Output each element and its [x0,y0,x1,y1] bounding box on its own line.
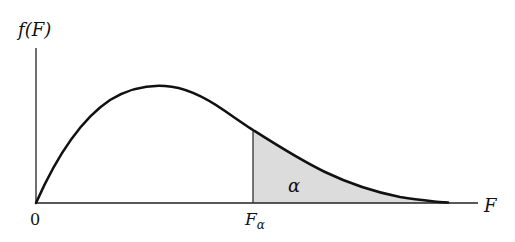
alpha-shaded-region [253,130,448,203]
critical-value-label: Fα [244,209,265,232]
x-axis-label: F [483,195,498,216]
origin-label: 0 [30,210,40,229]
f-distribution-diagram: f(F) F 0 Fα α [0,0,515,242]
alpha-area-label: α [288,175,300,196]
critical-value-subscript: α [257,218,265,232]
f-density-curve [36,86,448,203]
y-axis-label: f(F) [16,19,51,40]
